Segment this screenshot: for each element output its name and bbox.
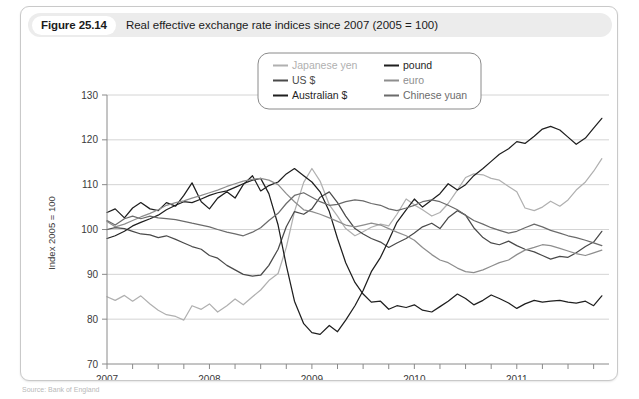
- figure-number-badge: Figure 25.14: [32, 16, 116, 35]
- x-tick-label: 2007: [96, 374, 119, 381]
- y-tick-label: 110: [82, 179, 98, 190]
- figure-card: Figure 25.14 Real effective exchange rat…: [20, 6, 618, 381]
- y-tick-label: 80: [87, 314, 99, 325]
- series-line-japanese-yen: [107, 159, 602, 320]
- y-tick-label: 130: [81, 90, 98, 101]
- x-tick-label: 2008: [198, 374, 221, 381]
- x-tick-label: 2010: [403, 374, 426, 381]
- chart-legend: Japanese yenpoundUS $euroAustralian $Chi…: [258, 53, 481, 109]
- series-line-chinese-yuan: [107, 193, 602, 246]
- x-axis-ticks: 20072008200920102011: [96, 364, 594, 381]
- y-tick-label: 90: [87, 269, 99, 280]
- x-tick-label: 2011: [506, 374, 528, 381]
- grid-lines: [107, 95, 609, 319]
- series-line-euro: [107, 178, 602, 272]
- legend-label[interactable]: euro: [403, 74, 424, 86]
- y-tick-label: 100: [81, 224, 98, 235]
- y-tick-label: 70: [87, 359, 99, 370]
- legend-label[interactable]: US $: [292, 74, 316, 86]
- series-line-pound: [107, 169, 602, 312]
- y-tick-label: 120: [81, 134, 98, 145]
- figure-source-note: Source: Bank of England: [22, 386, 322, 396]
- series-line-us: [107, 192, 602, 276]
- figure-title-text: Real effective exchange rate indices sin…: [126, 19, 438, 31]
- legend-label[interactable]: Chinese yuan: [403, 89, 467, 101]
- legend-label[interactable]: Japanese yen: [292, 59, 358, 71]
- line-chart: 708090100110120130 20072008200920102011 …: [21, 37, 618, 381]
- y-axis-label: Index 2005 = 100: [46, 196, 57, 270]
- legend-label[interactable]: pound: [403, 59, 432, 71]
- data-series-lines: [107, 118, 602, 334]
- legend-label[interactable]: Australian $: [292, 89, 348, 101]
- figure-title-bar: Figure 25.14 Real effective exchange rat…: [28, 13, 612, 37]
- x-tick-label: 2009: [301, 374, 324, 381]
- y-axis-ticks: 708090100110120130: [81, 90, 107, 370]
- chart-plot-area: 708090100110120130 20072008200920102011 …: [21, 37, 618, 381]
